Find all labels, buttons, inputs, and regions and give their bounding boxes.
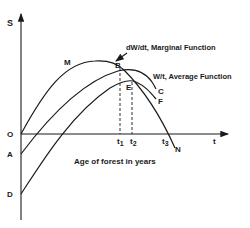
- net-value-curve: [21, 81, 156, 194]
- point-m-label: M: [64, 58, 71, 67]
- x-axis-label: t: [213, 137, 216, 146]
- marginal-pointer-arrow: [116, 53, 127, 61]
- t2-label: t2: [130, 137, 137, 147]
- point-d-label: D: [7, 190, 13, 199]
- t3-label: t3: [162, 137, 169, 147]
- point-f-label: F: [158, 97, 163, 106]
- t1-label: t1: [117, 137, 124, 147]
- origin-label: O: [7, 130, 13, 139]
- point-b-label: B: [115, 61, 121, 70]
- point-e-label: E: [126, 83, 132, 92]
- marginal-function-curve: [21, 61, 175, 148]
- point-a-label: A: [7, 150, 13, 159]
- forest-rotation-diagram: S O A D M B E C F N dW/dt, Marginal Func…: [0, 0, 250, 228]
- average-function-label: W/t, Average Function: [153, 72, 232, 81]
- point-c-label: C: [158, 87, 164, 96]
- x-axis-title: Age of forest in years: [74, 157, 156, 166]
- point-n-label: N: [175, 145, 181, 154]
- y-axis-label: S: [7, 18, 13, 28]
- marginal-function-label: dW/dt, Marginal Function: [126, 43, 216, 52]
